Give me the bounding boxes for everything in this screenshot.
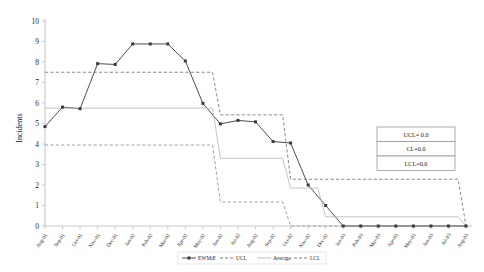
data-point-marker — [342, 225, 345, 228]
data-point-marker — [61, 106, 64, 109]
data-point-marker — [44, 125, 47, 128]
data-point-marker — [166, 42, 169, 45]
chart-legend: EWMıEUCLAverageLCL — [178, 252, 326, 264]
annotation-box: UCL= 0.0CL=0.0LCL=0.0 — [377, 127, 455, 171]
data-point-marker — [289, 141, 292, 144]
data-point-marker — [412, 225, 415, 228]
y-tick-label: 0 — [35, 222, 39, 231]
y-tick-label: 5 — [35, 119, 39, 128]
data-point-marker — [394, 225, 397, 228]
y-tick-label: 10 — [32, 17, 40, 26]
y-tick-label: 3 — [35, 160, 39, 169]
data-point-marker — [465, 225, 468, 228]
annotation-text: LCL=0.0 — [405, 160, 428, 167]
data-point-marker — [219, 122, 222, 125]
y-axis-title: Incidents — [15, 113, 24, 142]
legend-label: EWMıE — [198, 255, 217, 261]
data-point-marker — [131, 42, 134, 45]
ewma-control-chart: 012345678910 Aug-01Sep-01Oct-01Nov-01Dec… — [0, 0, 484, 272]
data-point-marker — [429, 225, 432, 228]
y-tick-label: 7 — [35, 78, 39, 87]
data-point-marker — [201, 102, 204, 105]
annotation-text: UCL= 0.0 — [403, 131, 428, 138]
y-tick-label: 8 — [35, 58, 39, 67]
data-point-marker — [184, 59, 187, 62]
chart-canvas: 012345678910 Aug-01Sep-01Oct-01Nov-01Dec… — [0, 0, 484, 272]
data-point-marker — [324, 204, 327, 207]
y-tick-label: 4 — [35, 140, 39, 149]
data-point-marker — [96, 62, 99, 65]
data-point-marker — [272, 140, 275, 143]
data-point-marker — [307, 184, 310, 187]
data-point-marker — [359, 225, 362, 228]
legend-label: UCL — [236, 255, 247, 261]
data-point-marker — [254, 120, 257, 123]
data-point-marker — [79, 107, 82, 110]
data-point-marker — [114, 63, 117, 66]
y-tick-label: 1 — [35, 201, 39, 210]
y-tick-label: 6 — [35, 99, 39, 108]
data-point-marker — [236, 119, 239, 122]
y-tick-label: 2 — [35, 181, 39, 190]
annotation-text: CL=0.0 — [406, 145, 425, 152]
legend-marker — [188, 257, 191, 260]
legend-label: Average — [273, 255, 291, 261]
data-point-marker — [447, 225, 450, 228]
legend-label: LCL — [310, 255, 320, 261]
data-point-marker — [149, 42, 152, 45]
data-point-marker — [377, 225, 380, 228]
y-tick-label: 9 — [35, 37, 39, 46]
